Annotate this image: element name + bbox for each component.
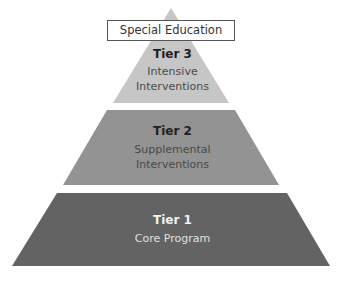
tier-1-title: Tier 1 <box>0 213 345 227</box>
tier-1-line-1: Core Program <box>0 231 345 246</box>
special-education-box: Special Education <box>107 20 235 41</box>
tier-2-line-1: Supplemental <box>0 142 345 157</box>
tier-3-title: Tier 3 <box>0 47 345 61</box>
tier-2-line-2: Interventions <box>0 157 345 172</box>
tier-1-shape <box>12 193 330 266</box>
tier-2-title: Tier 2 <box>0 124 345 138</box>
tier-3-line-2: Interventions <box>0 79 345 94</box>
tier-3-line-1: Intensive <box>0 64 345 79</box>
